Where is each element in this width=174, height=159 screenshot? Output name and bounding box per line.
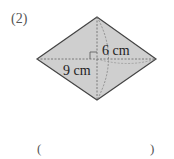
rhombus-shape [37, 17, 156, 100]
rhombus-diagram: 6 cm 9 cm [0, 0, 174, 159]
label-9cm: 9 cm [63, 63, 91, 78]
answer-close-paren: ) [150, 141, 154, 157]
label-6cm: 6 cm [102, 43, 130, 58]
answer-open-paren: ( [37, 141, 41, 157]
